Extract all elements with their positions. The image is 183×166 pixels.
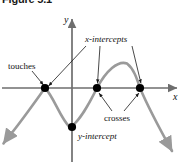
label-x-intercepts: x-intercepts — [85, 34, 127, 44]
label-touches: touches — [8, 61, 36, 71]
leader-crosses-to-right — [124, 93, 139, 111]
polynomial-graph — [0, 0, 183, 166]
curve-left-arrow-tail — [4, 140, 7, 144]
leader-xintercepts-to-touches — [49, 46, 87, 86]
leader-xintercepts-to-crosses-left — [98, 46, 101, 84]
marker-crosses-left — [93, 84, 101, 92]
figure-container: Figure 5.1 — [0, 0, 183, 166]
leader-lines-group — [32, 46, 141, 111]
marker-crosses-right — [136, 84, 144, 92]
axis-label-y: y — [64, 15, 68, 25]
marker-touches — [41, 84, 49, 92]
marker-y-intercept — [68, 123, 76, 131]
leader-crosses-to-left — [99, 93, 112, 111]
leader-touches — [32, 71, 44, 85]
label-y-intercept: y-intercept — [78, 131, 117, 141]
axis-label-x: x — [173, 92, 177, 102]
label-crosses: crosses — [104, 113, 130, 123]
